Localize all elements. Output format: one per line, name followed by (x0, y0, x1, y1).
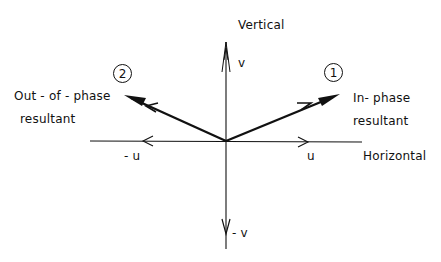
in-phase-vector (226, 97, 333, 141)
vertical-axis-title: Vertical (238, 19, 285, 31)
neg-v-label: - v (232, 227, 248, 239)
vector-2-number-badge: 2 (113, 64, 132, 83)
pos-u-label: u (307, 150, 315, 162)
neg-u-label: - u (124, 150, 140, 162)
in-phase-label-line2: resultant (353, 115, 408, 127)
horizontal-axis-title: Horizontal (363, 150, 426, 162)
out-of-phase-label-line2: resultant (20, 113, 75, 125)
vector-1-number-badge: 1 (324, 63, 343, 82)
vector-diagram (0, 0, 441, 262)
out-of-phase-arrowhead-icon (124, 95, 146, 106)
pos-v-label: v (238, 57, 245, 69)
in-phase-arrowhead-icon (318, 94, 340, 106)
out-of-phase-vector (131, 98, 226, 141)
out-of-phase-label-line1: Out - of - phase (14, 90, 111, 102)
in-phase-label-line1: In- phase (353, 92, 410, 104)
